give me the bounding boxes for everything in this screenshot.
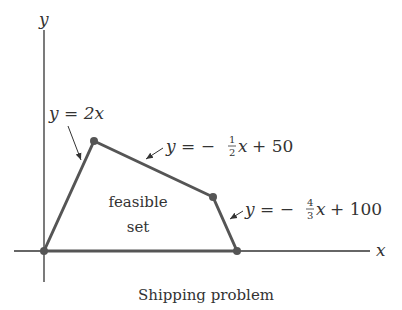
svg-text:4: 4 bbox=[307, 197, 313, 208]
region-label-set: set bbox=[127, 218, 150, 236]
arrow-constraint-3 bbox=[230, 211, 243, 219]
vertex-right bbox=[209, 193, 217, 201]
figure-caption: Shipping problem bbox=[138, 286, 274, 304]
svg-text:3: 3 bbox=[307, 210, 313, 221]
svg-text:y = 2x: y = 2x bbox=[48, 103, 104, 123]
feasible-set-diagram: y x feasible set y = 2x y = − 1 2 x + 50… bbox=[0, 0, 402, 310]
vertex-origin bbox=[40, 247, 48, 255]
constraint-label-1: y = 2x bbox=[48, 103, 104, 123]
svg-text:1: 1 bbox=[229, 134, 235, 145]
vertex-x-intercept bbox=[233, 247, 241, 255]
arrow-constraint-1 bbox=[68, 126, 81, 160]
constraint-label-3: y = − 4 3 x + 100 bbox=[244, 197, 382, 221]
constraint-label-2: y = − 1 2 x + 50 bbox=[165, 134, 293, 158]
x-axis-label: x bbox=[376, 240, 386, 260]
svg-text:+ 100: + 100 bbox=[330, 199, 382, 219]
svg-text:+ 50: + 50 bbox=[252, 136, 293, 156]
svg-text:y = −: y = − bbox=[244, 199, 294, 219]
svg-text:y = −: y = − bbox=[165, 136, 215, 156]
region-label-feasible: feasible bbox=[108, 193, 167, 211]
svg-text:2: 2 bbox=[229, 147, 235, 158]
y-axis-label: y bbox=[38, 9, 49, 29]
vertex-top bbox=[90, 137, 98, 145]
svg-text:x: x bbox=[316, 199, 326, 219]
arrow-constraint-2 bbox=[146, 148, 163, 159]
svg-text:x: x bbox=[238, 136, 248, 156]
